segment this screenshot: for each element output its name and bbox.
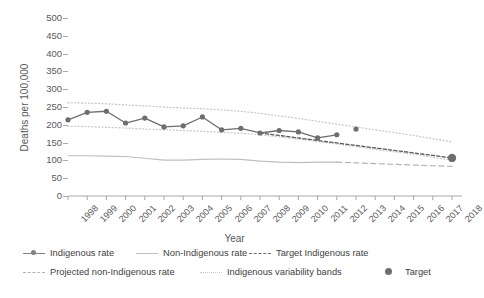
indigenous-rate-marker bbox=[104, 109, 109, 114]
indigenous-rate-marker bbox=[200, 114, 205, 119]
legend-row-2: Projected non-Indigenous rateIndigenous … bbox=[0, 267, 469, 284]
legend-item-label: Projected non-Indigenous rate bbox=[50, 267, 175, 277]
legend-item-label: Non-Indigenous rate bbox=[163, 248, 247, 258]
indigenous-rate-marker bbox=[238, 126, 243, 131]
indigenous-rate-marker bbox=[85, 110, 90, 115]
legend-item-label: Indigenous rate bbox=[50, 248, 114, 258]
indigenous-rate-marker bbox=[181, 123, 186, 128]
legend-item[interactable]: Target bbox=[378, 267, 431, 277]
indigenous-rate-marker bbox=[65, 117, 70, 122]
indigenous-rate-marker bbox=[353, 126, 358, 131]
indigenous-rate-marker bbox=[334, 132, 339, 137]
indigenous-rate-marker bbox=[277, 128, 282, 133]
legend-item-label: Indigenous variability bands bbox=[227, 267, 342, 277]
legend-item[interactable]: Projected non-Indigenous rate bbox=[23, 267, 175, 277]
legend-item[interactable]: Non-Indigenous rate bbox=[136, 248, 247, 258]
indigenous-rate-marker bbox=[257, 130, 262, 135]
target-point-marker bbox=[448, 154, 456, 162]
legend-row-1: Indigenous rateNon-Indigenous rateTarget… bbox=[0, 248, 469, 265]
plot-area bbox=[0, 0, 469, 245]
legend-swatch-dashed-light bbox=[23, 268, 45, 277]
indigenous-rate-marker bbox=[161, 124, 166, 129]
indigenous-rate-marker bbox=[219, 127, 224, 132]
legend-swatch-line-marker bbox=[23, 249, 45, 258]
indigenous-rate-marker bbox=[315, 135, 320, 140]
indigenous-rate-marker bbox=[296, 129, 301, 134]
legend-swatch-line-light bbox=[136, 249, 158, 258]
legend-swatch-dashed-dark bbox=[249, 249, 271, 258]
non-indigenous-rate-line bbox=[68, 156, 337, 163]
indigenous-rate-marker bbox=[123, 120, 128, 125]
legend-item[interactable]: Indigenous rate bbox=[23, 248, 114, 258]
legend-swatch-dotted-light bbox=[200, 268, 222, 277]
legend-item[interactable]: Indigenous variability bands bbox=[200, 267, 342, 277]
legend-item[interactable]: Target Indigenous rate bbox=[249, 248, 369, 258]
legend-swatch-big-dot bbox=[378, 268, 400, 277]
indigenous-rate-marker bbox=[142, 115, 147, 120]
legend-item-label: Target Indigenous rate bbox=[276, 248, 369, 258]
legend-item-label: Target bbox=[405, 267, 431, 277]
projected-non-indigenous-line bbox=[337, 162, 452, 166]
